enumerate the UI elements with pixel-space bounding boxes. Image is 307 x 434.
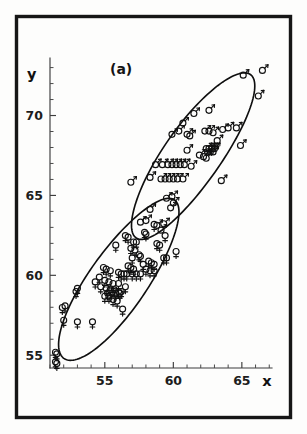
confidence-ellipses [59,73,255,360]
male-data-point [168,202,177,211]
male-data-point [218,175,227,184]
x-tick-label: 65 [233,373,250,388]
figure-container: 556065 55606570 y x (a) [0,0,307,434]
male-data-point [255,90,264,99]
female-data-point [122,284,128,294]
male-data-point [259,65,268,74]
female-data-point [54,360,60,370]
x-tick-label: 60 [165,373,183,388]
female-data-point [107,268,113,278]
x-tick-label: 55 [96,373,113,388]
female-data-points [52,221,179,370]
female-data-point [162,233,168,243]
female-data-point [74,319,80,329]
x-axis-tick-labels: 556065 [96,373,250,388]
female-data-point [113,242,119,252]
x-axis-title: x [262,373,272,389]
male-data-points [128,65,268,233]
male-data-point [128,177,137,186]
x-axis-ticks [50,362,269,368]
panel-label: (a) [110,61,132,77]
y-tick-label: 65 [26,188,43,203]
female-data-point [137,271,143,281]
male-confidence-ellipse [132,73,255,240]
male-data-point [214,135,223,144]
scatter-plot-figure: 556065 55606570 y x (a) [0,0,307,434]
male-data-point [184,145,193,154]
axes-group [50,58,272,368]
female-data-point [173,249,179,259]
y-tick-label: 55 [26,348,43,363]
male-data-point [237,140,246,149]
y-tick-label: 60 [26,268,44,283]
y-axis-tick-labels: 55606570 [26,108,44,363]
female-data-point [114,298,120,308]
male-data-point [206,105,215,114]
female-data-point [89,319,95,329]
y-axis-ticks [50,68,56,356]
y-axis-title: y [27,66,37,82]
female-data-point [120,306,126,316]
female-data-point [143,231,149,241]
y-tick-label: 70 [26,108,44,123]
